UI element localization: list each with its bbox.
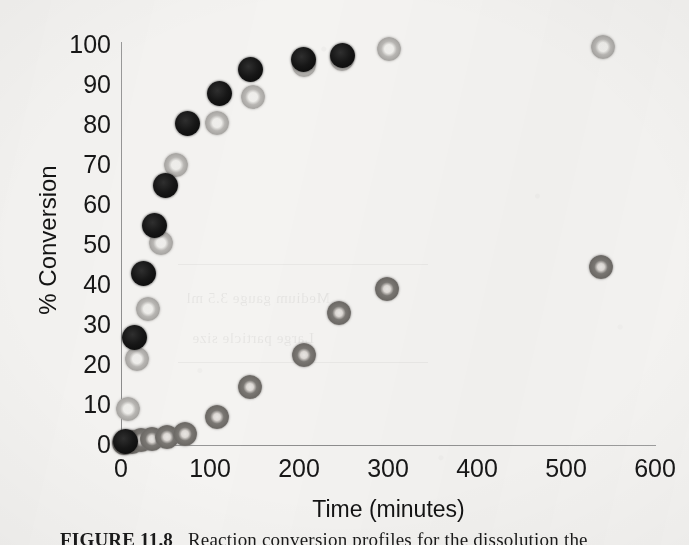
scatter-plot: 100 90 80 70 60 50 40 30 20 10 0 0 100 2… [0,0,689,545]
data-point [205,111,229,135]
data-point [207,81,232,106]
x-tick-label-0: 0 [86,456,156,481]
figure-caption-text: Reaction conversion profiles for the dis… [188,529,588,545]
data-point [153,173,178,198]
figure-caption-label: FIGURE 11.8 [60,529,173,545]
data-point [116,397,140,421]
data-point [173,422,197,446]
figure-caption-spacer [173,529,188,545]
data-point [375,277,399,301]
data-point [122,325,147,350]
y-tick-label-90: 90 [6,72,111,97]
figure-page: Medium gauge 3.5 ml Large particle size … [0,0,689,545]
y-axis-line [121,42,122,447]
data-point [205,405,229,429]
y-tick-label-0: 0 [6,432,111,457]
data-point [175,111,200,136]
y-tick-label-10: 10 [6,392,111,417]
data-point [377,37,401,61]
x-tick-label-100: 100 [175,456,245,481]
data-point [327,301,351,325]
data-point [238,57,263,82]
x-axis-line [121,445,656,446]
y-tick-label-20: 20 [6,352,111,377]
data-point [591,35,615,59]
x-tick-label-300: 300 [353,456,423,481]
x-tick-label-400: 400 [442,456,512,481]
x-tick-label-500: 500 [531,456,601,481]
data-point [238,375,262,399]
data-point [125,347,149,371]
x-tick-label-600: 600 [620,456,689,481]
x-axis-title: Time (minutes) [121,496,656,523]
figure-caption: FIGURE 11.8 Reaction conversion profiles… [60,529,660,545]
data-point [589,255,613,279]
data-point [241,85,265,109]
y-axis-title: % Conversion [34,130,62,350]
data-point [142,213,167,238]
data-point [330,43,355,68]
y-tick-label-100: 100 [6,32,111,57]
data-point [131,261,156,286]
x-tick-label-200: 200 [264,456,334,481]
data-point [291,47,316,72]
data-point [292,343,316,367]
data-point [113,429,138,454]
data-point [136,297,160,321]
